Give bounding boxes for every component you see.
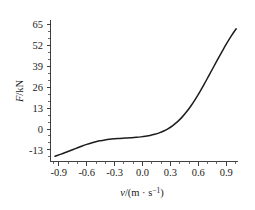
svg-text:F/kN: F/kN <box>14 79 25 103</box>
x-tick-label: -0.3 <box>106 167 123 178</box>
x-tick-label: 0.6 <box>192 167 205 178</box>
x-axis-title-unit-close: ) <box>160 187 164 199</box>
chart-figure: 65 52 39 26 13 0 -13 <box>0 0 255 210</box>
force-velocity-line-chart: 65 52 39 26 13 0 -13 <box>0 0 255 210</box>
y-axis-title-unit: /kN <box>14 79 25 95</box>
y-tick-label: 65 <box>33 19 44 30</box>
y-tick-label: 39 <box>33 61 44 72</box>
y-tick-label: 0 <box>38 124 43 135</box>
y-tick-label: -13 <box>29 145 43 156</box>
x-tick-label: -0.6 <box>78 167 95 178</box>
y-tick-label: 13 <box>33 103 44 114</box>
x-tick-label: 0.3 <box>164 167 177 178</box>
y-axis-title: F/kN <box>14 79 25 103</box>
x-tick-label: 0.9 <box>220 167 233 178</box>
x-tick-label: 0.0 <box>136 167 149 178</box>
y-tick-label: 52 <box>33 40 44 51</box>
x-tick-label: -0.9 <box>50 167 67 178</box>
y-tick-label: 26 <box>33 82 44 93</box>
x-axis-title-unit-open: /(m · s <box>125 187 152 199</box>
